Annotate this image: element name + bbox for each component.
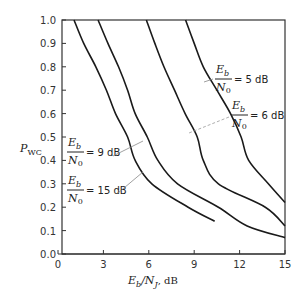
y-tick-label: 0.3 [40, 179, 56, 190]
chart: 0.00.10.20.30.40.50.60.70.80.91.00369121… [0, 0, 301, 300]
y-tick-label: 0.0 [40, 249, 56, 260]
annotation-denominator: N0 [231, 117, 247, 131]
annotations: EbN0= 5 dBEbN0= 6 dBEbN0= 9 dBEbN0= 15 d… [67, 63, 284, 206]
x-tick-label: 0 [55, 259, 61, 270]
x-axis-label: Eb/NJ, dB [127, 274, 178, 289]
x-tick-label: 6 [146, 259, 152, 270]
annotation-15db: EbN0= 15 dB [67, 174, 127, 206]
y-tick-label: 0.9 [40, 38, 56, 49]
curve-09db [98, 20, 285, 238]
axes: 0.00.10.20.30.40.50.60.70.80.91.00369121… [19, 15, 291, 289]
y-tick-label: 0.7 [40, 85, 56, 96]
annotation-numerator: Eb [215, 63, 229, 78]
plot-frame [62, 20, 285, 254]
annotation-denominator: N0 [67, 154, 83, 168]
x-tick-label: 9 [191, 259, 197, 270]
annotation-9db: EbN0= 9 dB [67, 136, 120, 168]
curves [74, 20, 285, 238]
leader-15db [118, 172, 143, 193]
annotation-denominator: N0 [67, 192, 83, 206]
y-tick-label: 0.4 [40, 155, 56, 166]
y-tick-label: 1.0 [40, 15, 56, 26]
x-tick-label: 3 [100, 259, 106, 270]
annotation-numerator: Eb [231, 99, 245, 114]
leader-6db [189, 117, 229, 133]
annotation-numerator: Eb [67, 136, 81, 151]
y-tick-label: 0.6 [40, 109, 56, 120]
annotation-value: = 5 dB [234, 74, 268, 85]
y-tick-label: 0.1 [40, 226, 56, 237]
y-axis-label: PWC [19, 142, 42, 157]
annotation-5db: EbN0= 5 dB [215, 63, 268, 95]
y-tick-label: 0.8 [40, 62, 56, 73]
annotation-denominator: N0 [215, 81, 231, 95]
annotation-numerator: Eb [67, 174, 81, 189]
x-tick-label: 15 [279, 259, 292, 270]
x-tick-label: 12 [233, 259, 246, 270]
annotation-value: = 6 dB [250, 110, 284, 121]
annotation-6db: EbN0= 6 dB [231, 99, 284, 131]
y-tick-label: 0.2 [40, 202, 56, 213]
annotation-value: = 9 dB [86, 147, 120, 158]
y-tick-label: 0.5 [40, 132, 56, 143]
